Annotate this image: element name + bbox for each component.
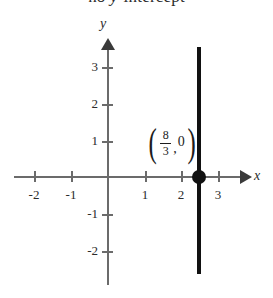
x-tick-mark (218, 171, 220, 182)
y-tick-label: -1 (72, 206, 98, 222)
point-coordinate-label: ( 8 3 , 0 ) (146, 127, 198, 160)
close-paren: ) (187, 127, 195, 160)
x-intercept-point-marker (192, 170, 206, 184)
y-tick-mark (102, 141, 113, 143)
y-tick-mark (102, 67, 113, 69)
fraction-denominator: 3 (161, 145, 171, 158)
y-axis-arrow-icon (101, 38, 115, 50)
y-tick-label: -2 (72, 243, 98, 259)
x-tick-mark (181, 171, 183, 182)
coordinate-y-value: 0 (178, 135, 185, 151)
graph-figure: no y-intercept x y -2 -1 1 2 3 3 2 1 -1 … (0, 0, 273, 298)
x-tick-mark (71, 171, 73, 182)
open-paren: ( (149, 127, 157, 160)
x-tick-label: 1 (132, 187, 158, 203)
x-axis-label: x (254, 168, 260, 184)
y-tick-mark (102, 104, 113, 106)
y-axis-label: y (100, 16, 106, 32)
y-axis-line (107, 50, 109, 285)
x-axis-arrow-icon (240, 170, 252, 184)
y-tick-label: 3 (72, 59, 98, 75)
fraction-eight-thirds: 8 3 (160, 129, 171, 157)
x-tick-label: -1 (58, 187, 84, 203)
x-tick-label: -2 (21, 187, 47, 203)
caption-suffix: -intercept (118, 0, 185, 6)
coordinate-comma: , (173, 142, 177, 160)
fraction-numerator: 8 (161, 129, 171, 142)
x-tick-label: 2 (168, 187, 194, 203)
x-tick-mark (34, 171, 36, 182)
caption-prefix: no (88, 0, 110, 6)
caption-variable: y (110, 0, 118, 6)
plotted-vertical-line (197, 47, 201, 274)
x-axis-line (14, 176, 248, 178)
y-tick-mark (102, 251, 113, 253)
x-tick-mark (145, 171, 147, 182)
figure-caption: no y-intercept (0, 0, 273, 7)
y-tick-label: 2 (72, 96, 98, 112)
y-tick-mark (102, 214, 113, 216)
y-tick-label: 1 (72, 133, 98, 149)
x-tick-label: 3 (205, 187, 231, 203)
